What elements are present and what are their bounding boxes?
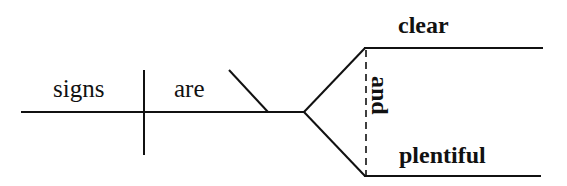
- subject-word: signs: [53, 75, 104, 102]
- fork-upper-branch: [304, 48, 365, 112]
- complement-word-plentiful: plentiful: [399, 142, 486, 168]
- conjunction-word: and: [367, 76, 393, 115]
- verb-word: are: [174, 75, 205, 102]
- sentence-diagram: signs are clear plentiful and: [0, 0, 567, 186]
- complement-slash: [229, 70, 268, 112]
- fork-lower-branch: [304, 112, 365, 176]
- complement-word-clear: clear: [398, 12, 449, 38]
